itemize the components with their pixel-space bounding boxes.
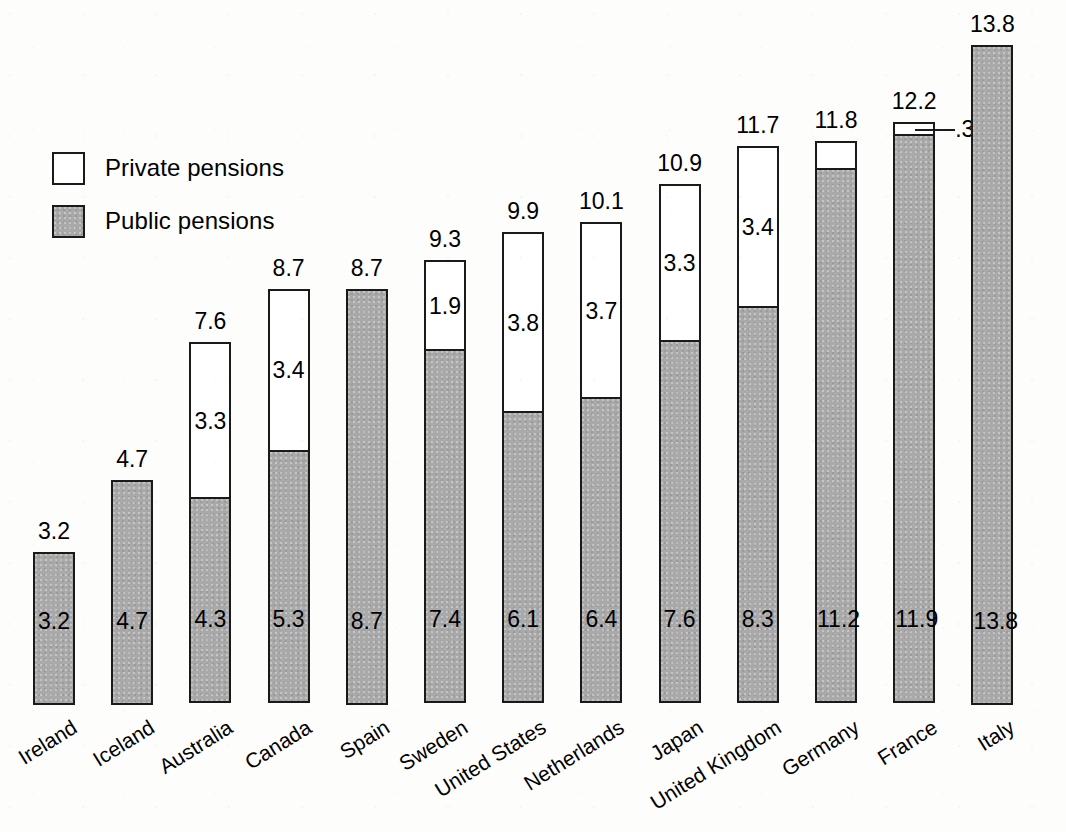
x-axis-label-iceland: Iceland [89, 716, 158, 770]
bar-germany[interactable]: 11.2 [815, 141, 857, 705]
bar-segment-private[interactable]: 3.7 [580, 222, 622, 399]
bar-segment-private[interactable]: 3.4 [737, 146, 779, 309]
bar-value-private: 3.4 [270, 359, 308, 382]
bar-segment-public[interactable]: 5.3 [268, 450, 310, 703]
bar-value-public: 4.3 [191, 608, 229, 631]
chart-legend: Private pensions Public pensions [52, 148, 284, 254]
legend-swatch-private-icon [52, 152, 85, 185]
bar-segment-public[interactable]: 11.2 [815, 168, 857, 703]
legend-item-private: Private pensions [52, 148, 284, 188]
bar-value-public: 6.1 [504, 608, 542, 631]
bar-value-public: 6.4 [582, 608, 620, 631]
bar-value-public: 11.2 [817, 608, 855, 631]
bar-spain[interactable]: 8.7 [346, 289, 388, 705]
x-axis-label-united-kingdom: United Kingdom [647, 716, 785, 813]
bar-value-private: 1.9 [426, 294, 464, 317]
bar-united-kingdom[interactable]: 3.48.3 [737, 146, 779, 705]
bar-value-private: 3.3 [191, 409, 229, 432]
bar-segment-public[interactable]: 11.9 [893, 134, 935, 703]
bar-total-label: 7.6 [171, 310, 249, 333]
bar-australia[interactable]: 3.34.3 [189, 342, 231, 705]
bar-total-label: 9.3 [406, 228, 484, 251]
x-axis-label-japan: Japan [646, 716, 706, 764]
pension-spending-chart: Private pensions Public pensions 3.23.2I… [0, 0, 1066, 832]
bar-value-public: 7.6 [661, 608, 699, 631]
bar-total-label: 11.7 [719, 114, 797, 137]
bar-ireland[interactable]: 3.2 [33, 552, 75, 705]
bar-total-label: 13.8 [953, 13, 1031, 36]
bar-segment-public[interactable]: 3.2 [33, 552, 75, 705]
x-axis-label-spain: Spain [336, 716, 393, 762]
bar-value-private: 3.7 [582, 299, 620, 322]
bar-total-label: 8.7 [250, 257, 328, 280]
bar-united-states[interactable]: 3.86.1 [502, 232, 544, 705]
x-axis-label-france: France [874, 716, 941, 768]
bar-value-public: 8.7 [348, 610, 386, 633]
bar-segment-public[interactable]: 7.6 [659, 340, 701, 703]
bar-segment-public[interactable]: 8.7 [346, 289, 388, 705]
x-axis-label-ireland: Ireland [15, 716, 81, 768]
bar-value-private: 3.3 [661, 251, 699, 274]
bar-iceland[interactable]: 4.7 [111, 480, 153, 705]
bar-segment-private[interactable]: 1.9 [424, 260, 466, 351]
plot-area: 3.23.2Ireland4.74.7Iceland3.34.37.6Austr… [0, 0, 1066, 832]
bar-value-public: 11.9 [895, 608, 933, 631]
bar-total-label: 11.8 [797, 109, 875, 132]
x-axis-label-italy: Italy [974, 716, 1018, 754]
bar-value-public: 7.4 [426, 608, 464, 631]
x-axis-label-australia: Australia [156, 716, 236, 777]
callout-leader-line [915, 129, 955, 131]
bar-segment-public[interactable]: 6.4 [580, 397, 622, 703]
bar-segment-public[interactable]: 6.1 [502, 411, 544, 703]
legend-item-public: Public pensions [52, 201, 284, 241]
bar-value-public: 13.8 [973, 610, 1011, 633]
bar-value-public: 4.7 [113, 610, 151, 633]
legend-swatch-public-icon [52, 205, 85, 238]
bar-total-label: 4.7 [93, 448, 171, 471]
bar-canada[interactable]: 3.45.3 [268, 289, 310, 705]
bar-netherlands[interactable]: 3.76.4 [580, 222, 622, 705]
bar-segment-private[interactable]: 3.3 [659, 184, 701, 342]
bar-segment-public[interactable]: 8.3 [737, 306, 779, 703]
bar-france[interactable]: 11.9 [893, 122, 935, 705]
bar-segment-public[interactable]: 4.7 [111, 480, 153, 705]
bar-total-label: 10.9 [641, 152, 719, 175]
bar-total-label: 10.1 [562, 190, 640, 213]
bar-total-label: 8.7 [328, 257, 406, 280]
bar-segment-private[interactable] [815, 141, 857, 170]
bar-segment-private[interactable]: 3.8 [502, 232, 544, 414]
legend-label-public: Public pensions [105, 207, 275, 235]
bar-value-public: 8.3 [739, 608, 777, 631]
bar-value-public: 5.3 [270, 608, 308, 631]
bar-total-label: 3.2 [15, 520, 93, 543]
bar-segment-private[interactable]: 3.3 [189, 342, 231, 500]
bar-segment-public[interactable]: 4.3 [189, 497, 231, 703]
bar-japan[interactable]: 3.37.6 [659, 184, 701, 705]
bar-segment-public[interactable]: 13.8 [971, 45, 1013, 705]
bar-sweden[interactable]: 1.97.4 [424, 260, 466, 705]
bar-segment-private[interactable]: 3.4 [268, 289, 310, 452]
x-axis-label-germany: Germany [778, 716, 862, 780]
bar-segment-public[interactable]: 7.4 [424, 349, 466, 703]
x-axis-label-canada: Canada [241, 716, 315, 773]
bar-total-label: 9.9 [484, 200, 562, 223]
bar-value-private: 3.4 [739, 216, 777, 239]
bar-italy[interactable]: 13.8 [971, 45, 1013, 705]
bar-value-public: 3.2 [35, 610, 73, 633]
bar-value-private: 3.8 [504, 311, 542, 334]
legend-label-private: Private pensions [105, 154, 284, 182]
bar-total-label: 12.2 [875, 90, 953, 113]
